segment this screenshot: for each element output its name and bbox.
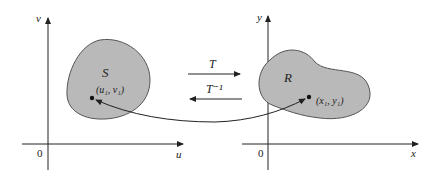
region-r-label: R xyxy=(283,70,292,85)
y-axis-label: y xyxy=(256,11,262,23)
point-xy xyxy=(307,95,311,99)
transformation-diagram: v u 0 S (u₁, v₁) T T⁻¹ y x 0 R (x₁, y₁) xyxy=(0,0,431,182)
u-axis-label: u xyxy=(176,148,182,160)
region-r xyxy=(259,50,370,119)
inverse-map-label: T⁻¹ xyxy=(206,82,223,96)
v-axis-label: v xyxy=(36,12,41,24)
xy-plane: y x 0 R (x₁, y₁) xyxy=(242,11,418,170)
origin-label-left: 0 xyxy=(37,147,43,159)
point-xy-label: (x₁, y₁) xyxy=(316,95,344,107)
uv-plane: v u 0 S (u₁, v₁) xyxy=(22,12,183,170)
mapping-arrows: T T⁻¹ xyxy=(188,57,242,99)
forward-map-label: T xyxy=(209,57,217,71)
point-uv-label: (u₁, v₁) xyxy=(96,84,125,96)
x-axis-label: x xyxy=(410,147,416,159)
region-s-label: S xyxy=(102,65,109,80)
origin-label-right: 0 xyxy=(258,147,264,159)
point-uv xyxy=(90,96,94,100)
